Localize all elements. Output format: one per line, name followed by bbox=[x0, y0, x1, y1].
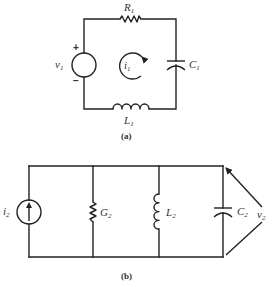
g2-label: G2 bbox=[100, 206, 112, 220]
i2-label: i2 bbox=[3, 205, 10, 219]
resistor-r1: R1 bbox=[120, 1, 141, 22]
caption-a: (a) bbox=[121, 131, 132, 141]
inductor-l1: L1 bbox=[113, 104, 149, 128]
plus-sign: + bbox=[73, 42, 79, 53]
loop-current-i1: i1 bbox=[120, 53, 142, 79]
minus-sign: − bbox=[73, 75, 79, 86]
caption-b: (b) bbox=[121, 271, 132, 281]
i1-label: i1 bbox=[124, 59, 131, 73]
r1-label: R1 bbox=[123, 1, 134, 15]
v1-label: v1 bbox=[55, 58, 63, 72]
figure-b: i2 G2 L2 C2 v2 (b) bbox=[3, 166, 266, 281]
current-source-i2: i2 bbox=[3, 200, 41, 224]
figure-a: R1 + − v1 i1 C1 L1 (a) bbox=[55, 1, 200, 141]
wires-a bbox=[84, 19, 176, 109]
circuit-diagrams: R1 + − v1 i1 C1 L1 (a) bbox=[0, 0, 276, 287]
voltage-source-v1: + − v1 bbox=[55, 42, 96, 86]
capacitor-c2: C2 bbox=[214, 205, 248, 219]
up-arrow-icon bbox=[26, 202, 32, 208]
line-to-bottom-rail bbox=[226, 222, 262, 255]
conductance-g2: G2 bbox=[90, 202, 112, 222]
l2-label: L2 bbox=[165, 206, 176, 220]
inductor-l2: L2 bbox=[154, 194, 176, 229]
clockwise-arrow-icon bbox=[120, 53, 142, 79]
capacitor-c1: C1 bbox=[167, 58, 200, 72]
wires-b bbox=[29, 166, 223, 257]
arrow-to-top-rail-icon bbox=[226, 168, 262, 207]
c2-label: C2 bbox=[237, 205, 248, 219]
v2-label: v2 bbox=[257, 208, 266, 222]
l1-label: L1 bbox=[123, 114, 134, 128]
c1-label: C1 bbox=[189, 58, 200, 72]
